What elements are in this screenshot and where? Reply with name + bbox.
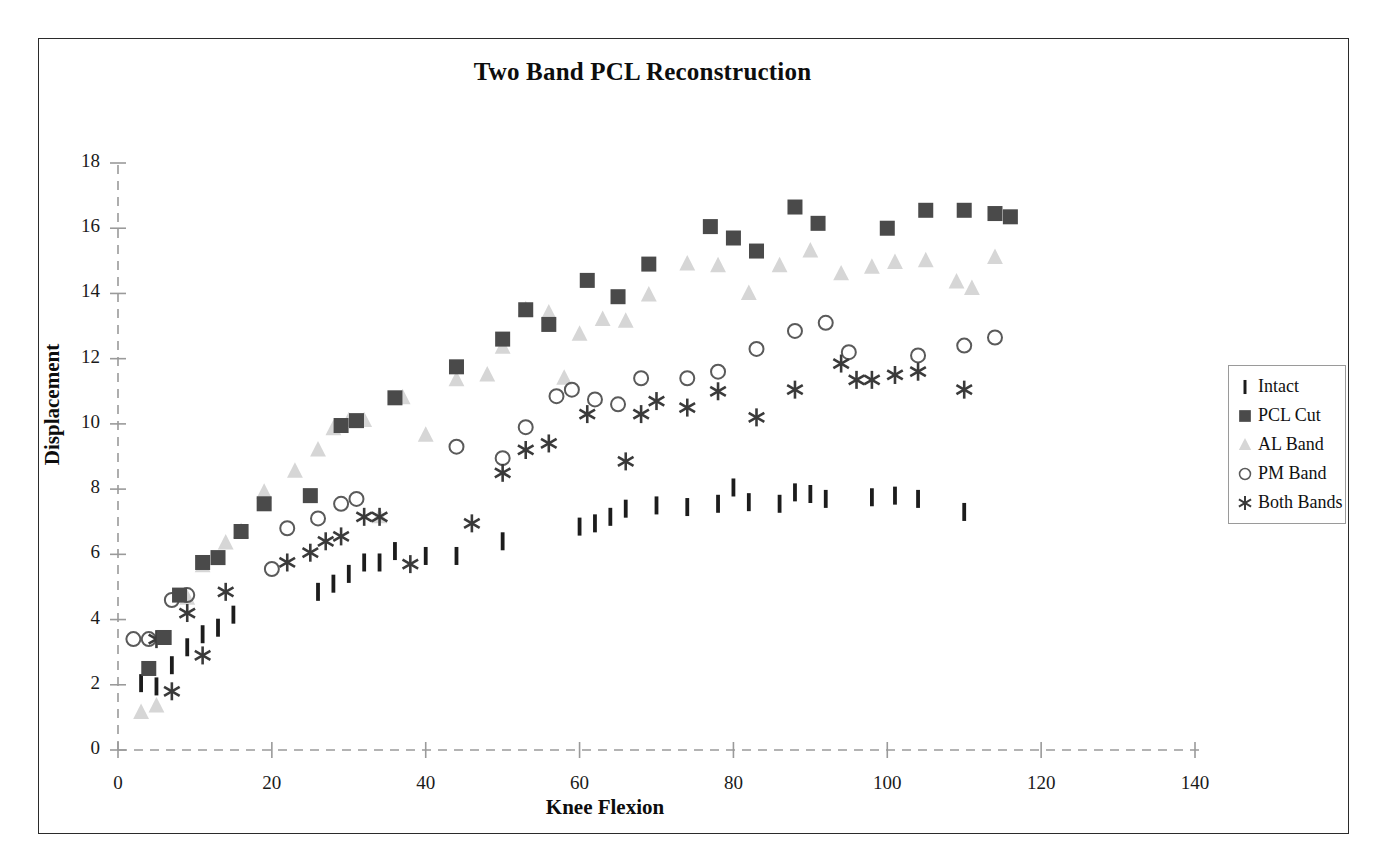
- legend-item-intact[interactable]: Intact: [1235, 372, 1341, 401]
- data-point: [716, 495, 720, 513]
- legend-marker-glyph: [1240, 468, 1251, 479]
- data-point: [257, 496, 272, 511]
- data-point: [741, 284, 757, 299]
- y-tick-label: 16: [60, 215, 100, 237]
- data-point: [126, 632, 140, 646]
- data-point: [887, 366, 903, 384]
- data-point: [449, 440, 463, 454]
- data-point: [987, 206, 1002, 221]
- data-point: [201, 625, 205, 643]
- y-axis-label: Displacement: [40, 295, 65, 515]
- data-point: [356, 508, 372, 526]
- data-point: [362, 553, 366, 571]
- data-point: [149, 697, 165, 712]
- data-point: [808, 485, 812, 503]
- data-point: [949, 273, 965, 288]
- data-point: [641, 257, 656, 272]
- data-point: [611, 397, 625, 411]
- data-point: [218, 583, 234, 601]
- data-point: [142, 632, 156, 646]
- data-point: [916, 490, 920, 508]
- data-point: [641, 286, 657, 301]
- data-point: [349, 492, 363, 506]
- data-point: [565, 383, 579, 397]
- data-point: [334, 418, 349, 433]
- legend-item-label: PCL Cut: [1258, 405, 1321, 426]
- filled-square-icon: [1235, 406, 1255, 426]
- data-point: [918, 203, 933, 218]
- data-point: [333, 527, 349, 545]
- data-point: [732, 478, 736, 496]
- data-point: [387, 390, 402, 405]
- data-point: [864, 258, 880, 273]
- data-point: [633, 405, 649, 423]
- data-point: [418, 426, 434, 441]
- legend-item-label: AL Band: [1258, 434, 1324, 455]
- data-point: [679, 399, 695, 417]
- data-point: [424, 547, 428, 565]
- data-point: [541, 434, 557, 452]
- data-point: [316, 583, 320, 601]
- legend-item-al-band[interactable]: AL Band: [1235, 430, 1341, 459]
- legend-item-pm-band[interactable]: PM Band: [1235, 459, 1341, 488]
- data-point: [749, 408, 765, 426]
- series-both-bands: [149, 355, 972, 701]
- data-point: [595, 311, 611, 326]
- data-point: [501, 532, 505, 550]
- x-tick-label: 100: [862, 772, 912, 794]
- scatter-plot: [0, 0, 1383, 862]
- data-point: [279, 553, 295, 571]
- data-point: [332, 575, 336, 593]
- x-tick-label: 60: [555, 772, 605, 794]
- data-point: [864, 371, 880, 389]
- data-point: [870, 488, 874, 506]
- legend-marker-glyph: [1244, 379, 1247, 393]
- data-point: [479, 366, 495, 381]
- data-point: [819, 316, 833, 330]
- data-point: [157, 630, 172, 645]
- data-point: [802, 242, 818, 257]
- data-point: [811, 216, 826, 231]
- data-point: [649, 392, 665, 410]
- data-point: [778, 495, 782, 513]
- data-point: [618, 312, 634, 327]
- legend-item-label: PM Band: [1258, 463, 1327, 484]
- data-point: [624, 500, 628, 518]
- x-tick-label: 140: [1170, 772, 1220, 794]
- data-point: [964, 280, 980, 295]
- data-point: [1003, 209, 1018, 224]
- legend-marker-glyph: [1239, 437, 1251, 449]
- data-point: [164, 682, 180, 700]
- data-point: [988, 330, 1002, 344]
- data-point: [750, 342, 764, 356]
- data-point: [518, 302, 533, 317]
- y-tick-label: 14: [60, 280, 100, 302]
- data-point: [910, 363, 926, 381]
- data-point: [655, 496, 659, 514]
- data-point: [496, 451, 510, 465]
- data-point: [449, 359, 464, 374]
- data-point: [495, 332, 510, 347]
- data-point: [962, 503, 966, 521]
- asterisk-icon: [1235, 493, 1255, 513]
- data-point: [185, 638, 189, 656]
- data-point: [234, 524, 249, 539]
- legend-item-pcl-cut[interactable]: PCL Cut: [1235, 401, 1341, 430]
- legend-item-both-bands[interactable]: Both Bands: [1235, 488, 1341, 517]
- data-point: [139, 674, 143, 692]
- data-point: [318, 532, 334, 550]
- data-point: [211, 550, 226, 565]
- data-point: [572, 325, 588, 340]
- data-point: [578, 518, 582, 536]
- data-point: [455, 547, 459, 565]
- data-point: [833, 355, 849, 373]
- data-point: [303, 544, 319, 562]
- data-point: [311, 511, 325, 525]
- chart-legend: IntactPCL CutAL BandPM BandBoth Bands: [1228, 365, 1346, 524]
- data-point: [349, 413, 364, 428]
- data-point: [956, 381, 972, 399]
- data-point: [541, 317, 556, 332]
- data-point: [918, 252, 934, 267]
- data-point: [680, 371, 694, 385]
- data-point: [710, 257, 726, 272]
